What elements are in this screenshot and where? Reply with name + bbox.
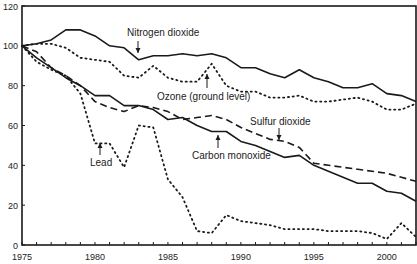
label-sulfur-dioxide: Sulfur dioxide (250, 116, 311, 127)
x-tick-label: 1990 (231, 252, 251, 262)
label-lead: Lead (90, 157, 112, 168)
x-tick-label: 1985 (158, 252, 178, 262)
y-tick-label: 120 (3, 2, 18, 12)
plot-frame (22, 6, 416, 245)
y-tick-label: 40 (8, 161, 18, 171)
x-tick-label: 1980 (85, 252, 105, 262)
label-carbon-monoxide: Carbon monoxide (192, 150, 271, 161)
pollutant-trend-chart: 020406080100120197519801985199019952000 … (0, 0, 417, 264)
arrow-head-icon (205, 74, 210, 79)
x-tick-label: 2000 (377, 252, 397, 262)
series-lines (22, 30, 416, 239)
y-tick-label: 60 (8, 121, 18, 131)
y-tick-label: 20 (8, 201, 18, 211)
arrow-head-icon (216, 135, 221, 140)
y-tick-label: 100 (3, 41, 18, 51)
y-tick-label: 0 (13, 241, 18, 251)
x-tick-label: 1975 (12, 252, 32, 262)
y-tick-label: 80 (8, 81, 18, 91)
axes: 020406080100120197519801985199019952000 (3, 2, 416, 263)
x-tick-label: 1995 (304, 252, 324, 262)
label-ozone: Ozone (ground level) (157, 91, 250, 102)
arrow-head-icon (136, 48, 141, 53)
label-nitrogen-dioxide: Nitrogen dioxide (127, 27, 200, 38)
arrow-head-icon (277, 135, 282, 140)
series-carbon-monoxide (22, 46, 416, 201)
chart-canvas: 020406080100120197519801985199019952000 … (0, 0, 417, 264)
